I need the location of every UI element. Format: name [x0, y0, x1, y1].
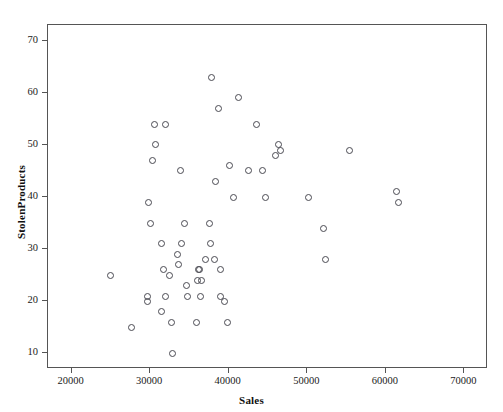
x-tick-label: 50000 — [276, 376, 336, 387]
scatter-point — [158, 308, 165, 315]
scatter-point — [259, 167, 266, 174]
x-tick-mark — [463, 368, 464, 373]
scatter-point — [235, 94, 242, 101]
y-tick-mark — [42, 248, 47, 249]
y-tick-label: 10 — [12, 347, 38, 358]
y-tick-mark — [42, 92, 47, 93]
scatter-point — [221, 298, 228, 305]
scatter-point — [177, 167, 184, 174]
scatter-point — [162, 121, 169, 128]
x-tick-label: 70000 — [433, 376, 493, 387]
scatter-point — [128, 324, 135, 331]
x-tick-label: 60000 — [355, 376, 415, 387]
scatter-point — [168, 319, 175, 326]
x-tick-mark — [385, 368, 386, 373]
y-tick-mark — [42, 144, 47, 145]
scatter-point — [194, 277, 201, 284]
scatter-point — [152, 141, 159, 148]
scatter-point — [212, 178, 219, 185]
y-tick-mark — [42, 352, 47, 353]
scatter-point — [224, 319, 231, 326]
y-tick-label: 70 — [12, 35, 38, 46]
scatter-point — [322, 256, 329, 263]
scatter-point — [217, 266, 224, 273]
scatter-point — [183, 282, 190, 289]
scatter-point — [215, 105, 222, 112]
x-axis-title: Sales — [0, 394, 503, 406]
scatter-point — [162, 293, 169, 300]
scatter-point — [193, 319, 200, 326]
scatter-point — [181, 220, 188, 227]
x-tick-label: 40000 — [198, 376, 258, 387]
scatter-point — [226, 162, 233, 169]
scatter-point — [207, 240, 214, 247]
scatter-point — [144, 298, 151, 305]
scatter-point — [206, 220, 213, 227]
scatter-point — [175, 261, 182, 268]
y-tick-label: 30 — [12, 243, 38, 254]
scatter-point — [211, 256, 218, 263]
scatter-point — [346, 147, 353, 154]
scatter-point — [166, 272, 173, 279]
scatter-point — [169, 350, 176, 357]
y-tick-mark — [42, 40, 47, 41]
scatter-point — [305, 194, 312, 201]
y-tick-label: 20 — [12, 295, 38, 306]
x-tick-label: 30000 — [119, 376, 179, 387]
x-tick-mark — [228, 368, 229, 373]
scatter-point — [277, 147, 284, 154]
scatter-plot-figure: StolenProducts Sales 1020304050607020000… — [0, 0, 503, 412]
scatter-point — [208, 74, 215, 81]
x-tick-mark — [306, 368, 307, 373]
scatter-point — [174, 251, 181, 258]
x-tick-label: 20000 — [41, 376, 101, 387]
y-tick-mark — [42, 196, 47, 197]
y-tick-label: 40 — [12, 191, 38, 202]
scatter-point — [393, 188, 400, 195]
scatter-point — [320, 225, 327, 232]
scatter-point — [184, 293, 191, 300]
y-tick-mark — [42, 300, 47, 301]
y-tick-label: 50 — [12, 139, 38, 150]
scatter-point — [202, 256, 209, 263]
x-tick-mark — [71, 368, 72, 373]
data-points-layer — [48, 25, 486, 367]
scatter-point — [197, 293, 204, 300]
scatter-point — [158, 240, 165, 247]
scatter-point — [245, 167, 252, 174]
scatter-point — [151, 121, 158, 128]
plot-area-frame — [47, 24, 487, 368]
scatter-point — [230, 194, 237, 201]
scatter-point — [147, 220, 154, 227]
scatter-point — [253, 121, 260, 128]
scatter-point — [395, 199, 402, 206]
scatter-point — [178, 240, 185, 247]
scatter-point — [145, 199, 152, 206]
x-tick-mark — [149, 368, 150, 373]
scatter-point — [262, 194, 269, 201]
y-tick-label: 60 — [12, 87, 38, 98]
scatter-point — [107, 272, 114, 279]
scatter-point — [149, 157, 156, 164]
